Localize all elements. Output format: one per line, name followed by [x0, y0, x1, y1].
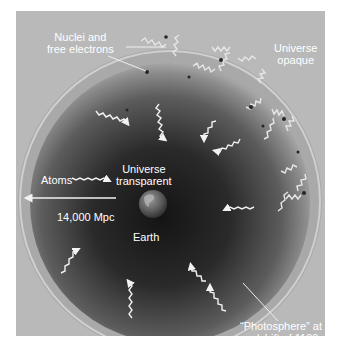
label-universe-opaque: Universe opaque [274, 42, 317, 66]
label-photosphere-line2: redshift of 1100 [240, 332, 322, 336]
label-transparent-line1: Universe [116, 163, 172, 175]
label-opaque-line1: Universe [274, 42, 317, 54]
label-transparent-line2: transparent [116, 175, 172, 187]
label-distance: 14,000 Mpc [57, 211, 114, 223]
label-earth: Earth [133, 231, 159, 243]
label-atoms: Atoms [41, 174, 72, 186]
label-opaque-line2: opaque [274, 54, 317, 66]
earth-globe [139, 190, 167, 218]
label-photosphere: “Photosphere” at redshift of 1100 [240, 320, 322, 336]
transparent-universe-sphere [30, 63, 310, 336]
diagram-panel: Nuclei and free electrons Universe opaqu… [16, 11, 325, 336]
label-nuclei-line2: free electrons [47, 43, 114, 55]
label-photosphere-line1: “Photosphere” at [240, 320, 322, 332]
label-nuclei-line1: Nuclei and [47, 31, 114, 43]
label-nuclei: Nuclei and free electrons [47, 31, 114, 55]
label-universe-transparent: Universe transparent [116, 163, 172, 187]
